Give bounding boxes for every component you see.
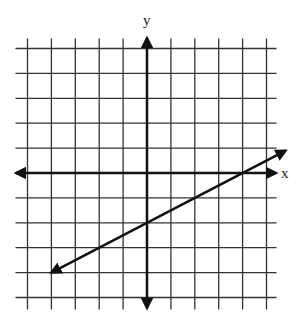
graphed-line bbox=[51, 151, 285, 273]
y-axis-label: y bbox=[143, 12, 151, 28]
x-axis-label: x bbox=[281, 165, 289, 181]
coordinate-plane: x y bbox=[0, 0, 297, 320]
axes bbox=[16, 38, 276, 308]
